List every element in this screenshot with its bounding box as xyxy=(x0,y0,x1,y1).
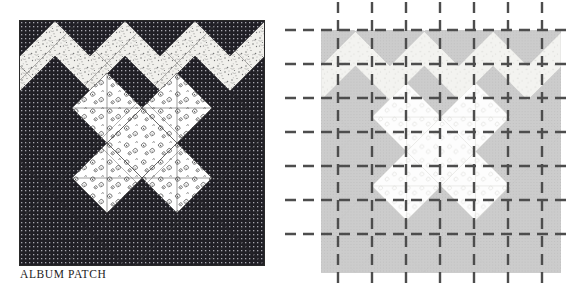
figure-root: ALBUM PATCH xyxy=(0,0,566,286)
quilt-photograph xyxy=(19,20,265,266)
figure-caption: ALBUM PATCH xyxy=(20,268,106,280)
quilt-photo-svg xyxy=(20,21,264,265)
quilt-diagram xyxy=(321,30,561,273)
quilt-diagram-svg xyxy=(321,30,561,273)
left-panel-quilt-photo: ALBUM PATCH xyxy=(0,0,283,286)
right-panel-construction-diagram xyxy=(283,0,566,286)
